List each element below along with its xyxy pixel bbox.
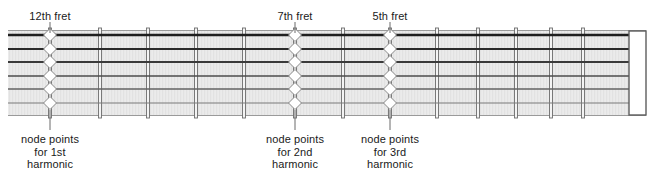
label-node-2nd: node pointsfor 2ndharmonic: [266, 133, 324, 171]
fret-6: [342, 28, 345, 118]
label-node-3rd-line-2: for 3rd: [361, 146, 419, 159]
fretboard-svg: [0, 0, 654, 178]
label-node-3rd-line-3: harmonic: [361, 158, 419, 171]
fret-2: [147, 28, 150, 118]
label-node-1st-line-2: for 1st: [21, 146, 79, 159]
nut-rect: [629, 31, 646, 115]
label-fret-5: 5th fret: [372, 10, 407, 23]
fret-4: [243, 28, 246, 118]
label-node-3rd-line-1: node points: [361, 133, 419, 146]
label-node-1st-line-3: harmonic: [21, 158, 79, 171]
fret-1: [99, 28, 102, 118]
fret-10: [515, 28, 518, 118]
label-fret-7: 7th fret: [277, 10, 312, 23]
label-node-3rd: node pointsfor 3rdharmonic: [361, 133, 419, 171]
nut-block: [629, 31, 646, 115]
fretboard-diagram: 12th fret7th fret5th fret node pointsfor…: [0, 0, 654, 178]
label-node-2nd-line-2: for 2nd: [266, 146, 324, 159]
fret-11: [550, 28, 553, 118]
label-node-1st-line-1: node points: [21, 133, 79, 146]
label-node-1st: node pointsfor 1stharmonic: [21, 133, 79, 171]
label-node-2nd-line-3: harmonic: [266, 158, 324, 171]
label-fret-12: 12th fret: [29, 10, 70, 23]
label-node-2nd-line-1: node points: [266, 133, 324, 146]
fret-8: [436, 28, 439, 118]
fret-9: [477, 28, 480, 118]
fret-3: [195, 28, 198, 118]
fret-12: [582, 28, 585, 118]
